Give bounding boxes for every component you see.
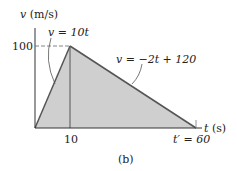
velocity-time-diagram: v (m/s) 100 v = 10t v = −2t + 120 10 t′ … (0, 0, 237, 171)
x-axis-label: t (s) (204, 122, 226, 135)
label1-leader (48, 38, 55, 84)
y-axis-label: v (m/s) (20, 8, 58, 21)
figure-caption: (b) (118, 153, 134, 166)
curve2-label: v = −2t + 120 (116, 53, 196, 66)
y-tick-100: 100 (12, 40, 33, 53)
curve1-label: v = 10t (48, 26, 89, 39)
label2-leader (132, 64, 142, 84)
x-tick-10: 10 (64, 133, 78, 146)
